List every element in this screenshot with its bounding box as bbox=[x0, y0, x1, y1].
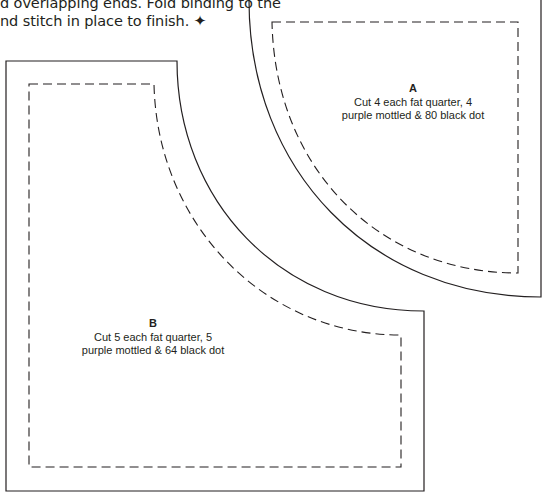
template-b-letter: B bbox=[82, 317, 224, 331]
template-b-cut-line-1: Cut 5 each fat quarter, 5 bbox=[82, 331, 224, 345]
template-a-letter: A bbox=[342, 82, 484, 96]
template-a-cut-line bbox=[249, 0, 541, 297]
template-a-sew-line bbox=[272, 22, 518, 273]
template-a bbox=[249, 0, 541, 297]
template-b bbox=[6, 61, 424, 491]
pattern-templates bbox=[0, 0, 542, 495]
template-a-label: A Cut 4 each fat quarter, 4 purple mottl… bbox=[342, 82, 484, 123]
template-b-cut-line-2: purple mottled & 64 black dot bbox=[82, 344, 224, 358]
template-b-label: B Cut 5 each fat quarter, 5 purple mottl… bbox=[82, 317, 224, 358]
template-a-cut-line-1: Cut 4 each fat quarter, 4 bbox=[342, 96, 484, 110]
template-b-cut-line bbox=[6, 61, 424, 491]
template-b-sew-line bbox=[29, 84, 401, 467]
template-a-cut-line-2: purple mottled & 80 black dot bbox=[342, 109, 484, 123]
